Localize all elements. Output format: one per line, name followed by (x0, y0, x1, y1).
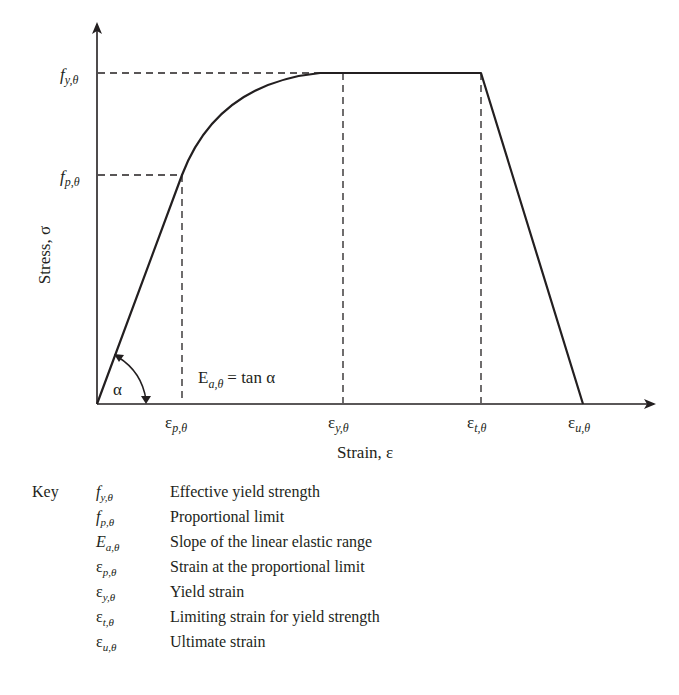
key-legend: Key fy,θ Effective yield strength fp,θ P… (0, 480, 679, 695)
key-item: εp,θ Strain at the proportional limit (96, 558, 656, 584)
stress-strain-curve (97, 73, 583, 404)
key-item: εy,θ Yield strain (96, 583, 656, 609)
x-axis-title: Strain, ε (337, 443, 393, 462)
guide-lines (98, 73, 481, 403)
y-axis-title: Stress, σ (35, 226, 54, 284)
key-item: εu,θ Ultimate strain (96, 633, 656, 659)
key-item: Ea,θ Slope of the linear elastic range (96, 533, 656, 559)
key-symbol: εy,θ (96, 583, 166, 603)
key-item: εt,θ Limiting strain for yield strength (96, 608, 656, 634)
key-description: Yield strain (170, 583, 244, 601)
key-item: fp,θ Proportional limit (96, 508, 656, 534)
slope-annotation: Ea,θ= tan α (198, 368, 275, 391)
angle-arc (118, 357, 146, 400)
key-symbol: Ea,θ (96, 533, 166, 553)
key-description: Effective yield strength (170, 483, 320, 501)
eu-label: εu,θ (568, 413, 590, 435)
key-title: Key (32, 483, 59, 501)
key-symbol: fp,θ (96, 508, 166, 528)
stress-strain-diagram: α Ea,θ= tan α fy,θ fp,θ Stress, σ εp,θ ε… (0, 0, 679, 480)
key-symbol: εp,θ (96, 558, 166, 578)
key-symbol: εt,θ (96, 608, 166, 628)
angle-label: α (113, 380, 122, 399)
key-symbol: εu,θ (96, 633, 166, 653)
ep-label: εp,θ (165, 413, 187, 435)
key-description: Strain at the proportional limit (170, 558, 365, 576)
angle-arrow-bottom-icon (141, 396, 151, 404)
ey-label: εy,θ (328, 413, 349, 435)
key-description: Ultimate strain (170, 633, 266, 651)
key-description: Limiting strain for yield strength (170, 608, 380, 626)
key-description: Slope of the linear elastic range (170, 533, 372, 551)
key-symbol: fy,θ (96, 483, 166, 503)
key-item: fy,θ Effective yield strength (96, 483, 656, 509)
fp-label: fp,θ (60, 167, 80, 189)
key-description: Proportional limit (170, 508, 284, 526)
et-label: εt,θ (467, 413, 486, 435)
fy-label: fy,θ (60, 65, 78, 87)
